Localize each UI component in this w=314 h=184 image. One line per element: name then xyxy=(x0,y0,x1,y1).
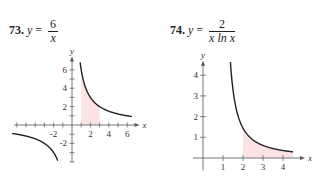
y-axis-label: y xyxy=(69,46,74,56)
x-tick-label: 2 xyxy=(88,129,93,139)
x-axis-label: x xyxy=(141,120,146,130)
curve xyxy=(230,62,293,152)
y-tick-label: 4 xyxy=(63,83,68,93)
y-tick-label: 6 xyxy=(63,65,68,75)
y-axis-arrow-icon xyxy=(70,57,74,62)
y-tick-label: 4 xyxy=(194,70,199,80)
x-tick-label: 2 xyxy=(241,162,246,172)
x-axis-arrow-icon xyxy=(134,123,139,127)
y-tick-label: -2 xyxy=(60,138,68,148)
y-axis-arrow-icon xyxy=(201,61,205,66)
graphs: xy-2246-2246xy12341234 xyxy=(0,0,314,184)
x-tick-label: 4 xyxy=(281,162,286,172)
x-tick-label: 4 xyxy=(107,129,112,139)
y-axis-label: y xyxy=(200,50,205,60)
x-tick-label: -2 xyxy=(50,129,58,139)
y-tick-label: 1 xyxy=(194,132,199,142)
x-tick-label: 6 xyxy=(125,129,130,139)
x-axis-label: x xyxy=(307,153,312,163)
y-tick-label: 3 xyxy=(194,91,199,101)
x-axis-arrow-icon xyxy=(300,156,305,160)
x-tick-label: 1 xyxy=(221,162,226,172)
shaded-area xyxy=(243,128,293,158)
y-tick-label: 2 xyxy=(194,112,199,122)
y-tick-label: 2 xyxy=(63,102,68,112)
x-tick-label: 3 xyxy=(261,162,266,172)
